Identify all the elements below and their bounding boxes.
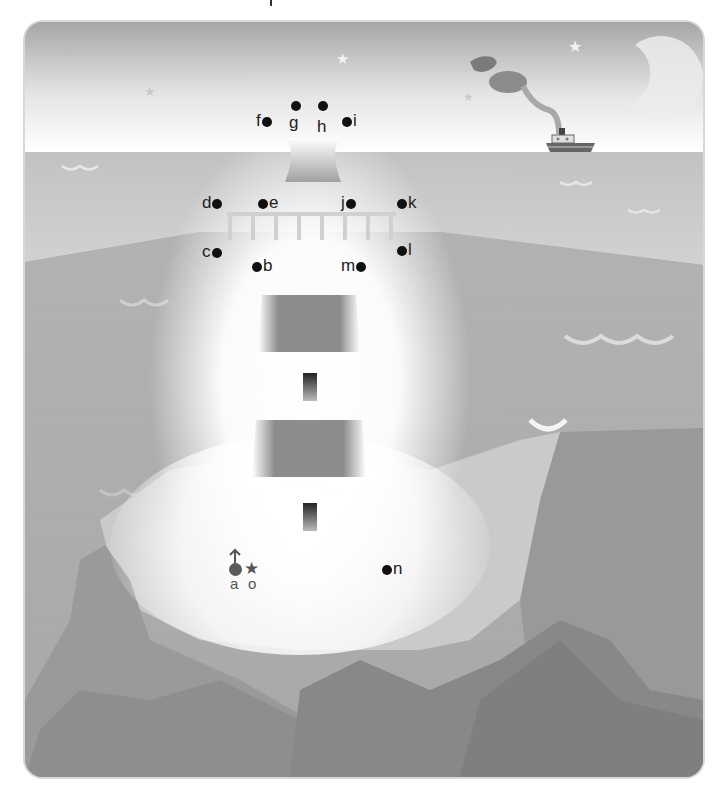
lighthouse-band-lower bbox=[252, 420, 366, 477]
svg-text:★: ★ bbox=[463, 90, 474, 104]
dot-marker bbox=[262, 117, 272, 127]
dot-e[interactable]: e bbox=[257, 194, 278, 211]
dot-j[interactable]: j bbox=[341, 194, 357, 211]
lighthouse-window-upper bbox=[303, 373, 317, 401]
scene-illustration: ★ ★ ★ ★ ★ bbox=[25, 22, 703, 777]
dot-marker bbox=[397, 246, 407, 256]
dot-a-label: a bbox=[230, 576, 238, 591]
dot-g-marker[interactable] bbox=[291, 101, 301, 111]
lighthouse-band-upper bbox=[258, 295, 360, 352]
lighthouse-window-lower bbox=[303, 503, 317, 531]
svg-text:★: ★ bbox=[336, 50, 349, 67]
smoke-puff-large bbox=[489, 71, 527, 93]
dot-marker bbox=[258, 199, 268, 209]
dot-f[interactable]: f bbox=[256, 112, 273, 129]
svg-text:★: ★ bbox=[62, 43, 75, 59]
dot-d[interactable]: d bbox=[202, 194, 223, 211]
dot-marker bbox=[212, 248, 222, 258]
dot-marker bbox=[342, 117, 352, 127]
lighthouse-lamp bbox=[285, 138, 341, 182]
dot-o-label: o bbox=[248, 576, 256, 591]
dot-k[interactable]: k bbox=[396, 194, 417, 211]
dot-h-marker[interactable] bbox=[318, 101, 328, 111]
dot-n[interactable]: n bbox=[381, 560, 402, 577]
dot-marker bbox=[382, 565, 392, 575]
dot-h-label: h bbox=[317, 118, 326, 135]
cropped-text-fragment bbox=[270, 0, 272, 6]
dot-marker bbox=[212, 199, 222, 209]
svg-text:★: ★ bbox=[144, 84, 156, 99]
svg-text:★: ★ bbox=[568, 38, 582, 55]
dot-marker bbox=[346, 199, 356, 209]
dot-i[interactable]: i bbox=[341, 112, 357, 129]
dot-marker bbox=[356, 262, 366, 272]
dot-l[interactable]: l bbox=[396, 241, 412, 258]
dot-g-label: g bbox=[289, 114, 298, 131]
dot-c[interactable]: c bbox=[202, 243, 223, 260]
dot-m[interactable]: m bbox=[341, 257, 367, 274]
puzzle-canvas: ★ ★ ★ ★ ★ bbox=[25, 22, 703, 777]
dot-b[interactable]: b bbox=[251, 257, 272, 274]
dot-marker bbox=[252, 262, 262, 272]
dot-marker bbox=[397, 199, 407, 209]
